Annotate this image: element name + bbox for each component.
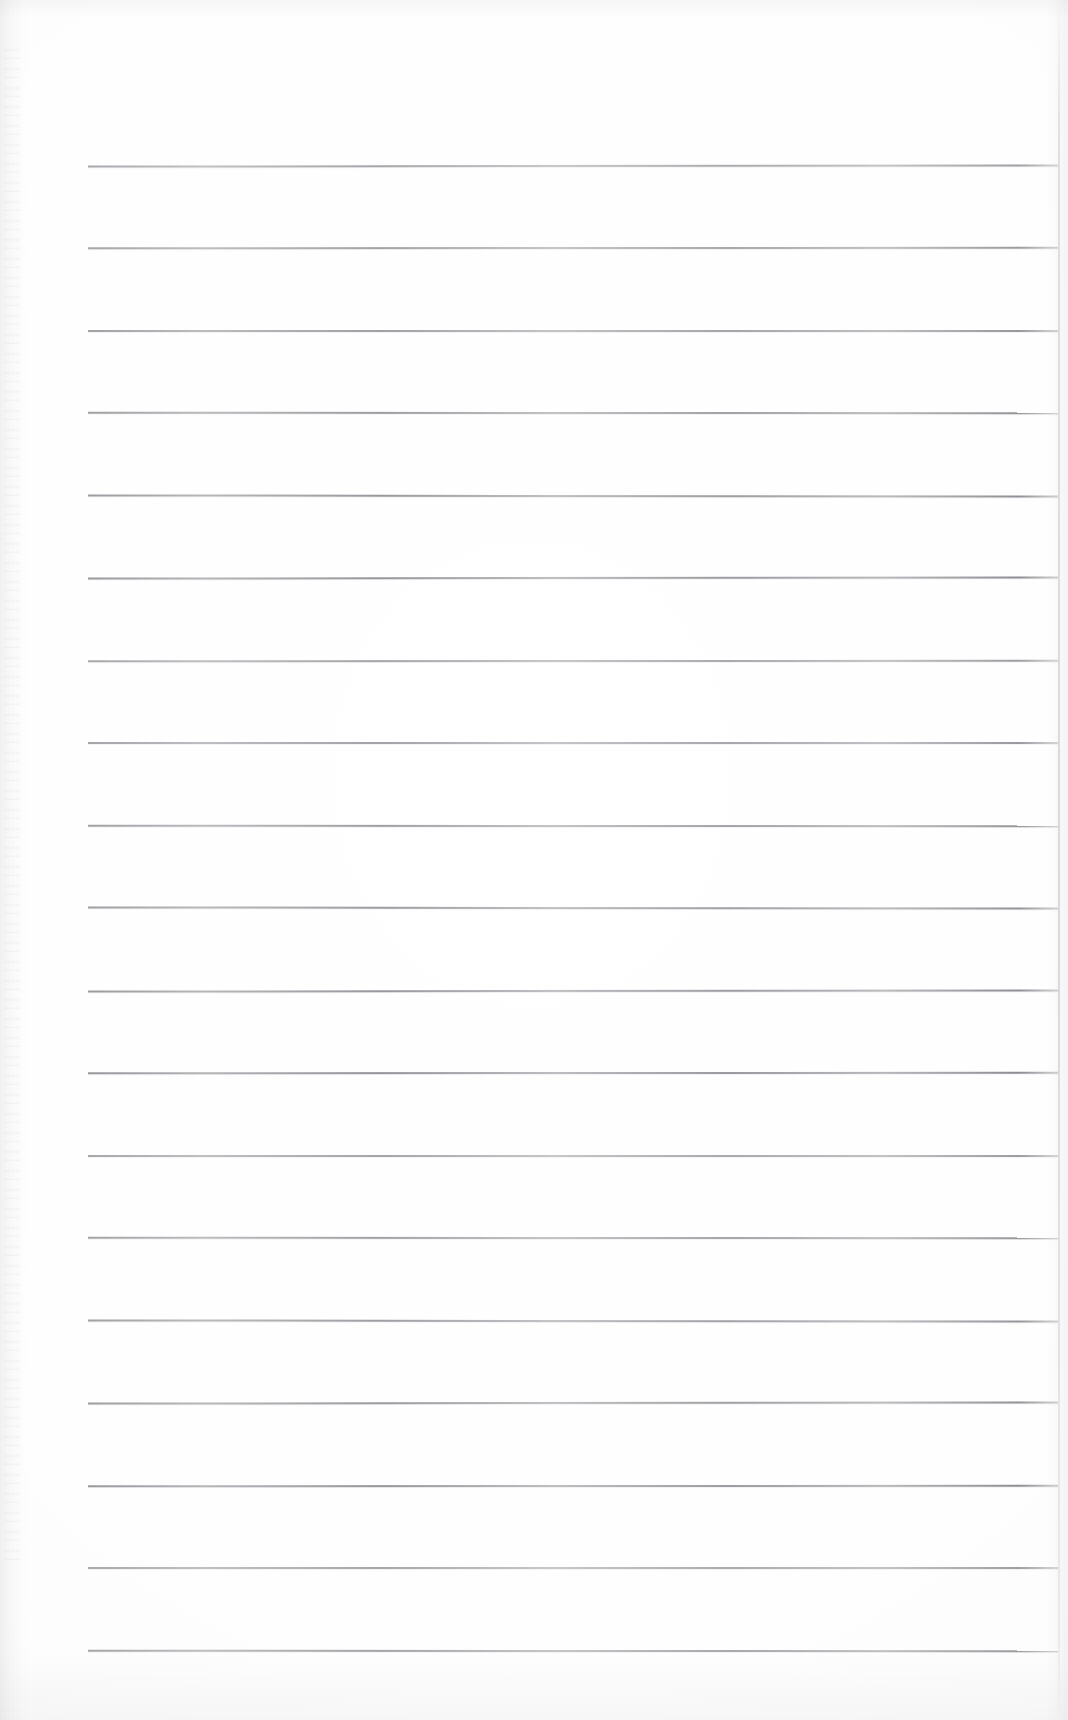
rule-line	[88, 989, 1058, 992]
rule-line	[88, 576, 1058, 579]
rule-line	[88, 1237, 1058, 1240]
rule-line	[88, 164, 1058, 167]
ruled-lines-group	[0, 0, 1068, 1720]
scanned-page	[0, 0, 1068, 1720]
rule-line	[88, 1567, 1058, 1569]
rule-line	[88, 660, 1058, 663]
rule-line	[88, 1401, 1058, 1404]
rule-line	[88, 1072, 1058, 1075]
rule-line	[88, 412, 1058, 415]
rule-line	[88, 330, 1058, 332]
rule-line	[88, 1319, 1058, 1322]
rule-line	[88, 742, 1058, 744]
rule-line	[88, 1155, 1058, 1157]
rule-line	[88, 247, 1058, 250]
rule-line	[88, 825, 1058, 828]
rule-line	[88, 1650, 1058, 1653]
rule-line	[88, 906, 1058, 909]
rule-line	[88, 1485, 1058, 1488]
rule-line	[88, 494, 1058, 497]
